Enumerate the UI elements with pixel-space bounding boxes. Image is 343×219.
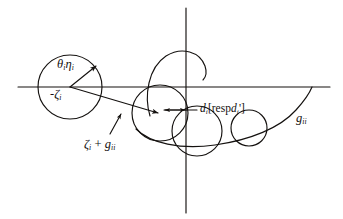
- label-zeta-plus-g: ζi + gii: [84, 138, 116, 152]
- neg-zeta-subscript: i: [59, 93, 61, 102]
- label-theta-eta: θiηi: [57, 58, 74, 72]
- figure-vector-graphics: [0, 0, 343, 219]
- eta-subscript: i: [72, 63, 74, 72]
- resp-text: resp: [212, 102, 231, 114]
- bracket-close: ]: [241, 102, 245, 114]
- label-negative-zeta: -ζi: [50, 88, 62, 102]
- long-chord-arrow: [70, 87, 158, 113]
- figure-canvas: θiηi -ζi ζi + gii di[respdi'] gii: [0, 0, 343, 219]
- large-sweeping-arc: [136, 87, 312, 147]
- neg-zeta-glyph: -ζ: [50, 87, 59, 101]
- g-subscript: ii: [111, 143, 116, 152]
- g-right-subscript: ii: [302, 117, 307, 126]
- label-d-resp-d-prime: di[respdi']: [200, 103, 245, 116]
- leader-line-zeta: [110, 114, 121, 134]
- label-g-ii-right: gii: [296, 112, 307, 126]
- plus-sign: +: [91, 137, 104, 151]
